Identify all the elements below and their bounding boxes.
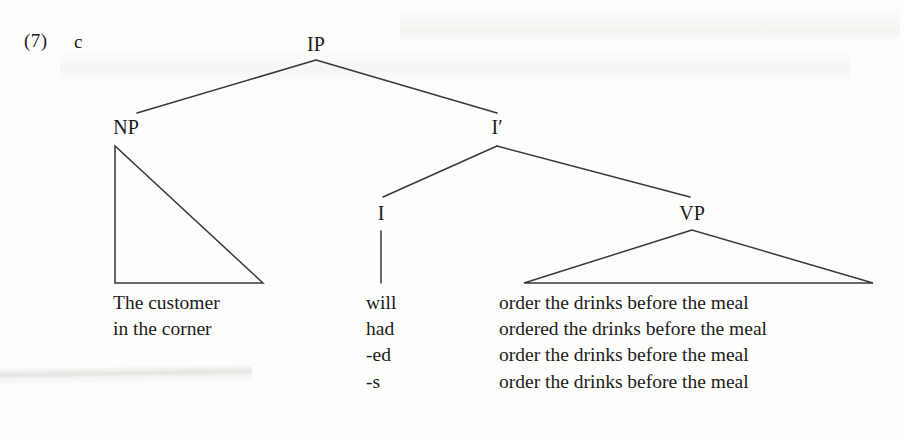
terminal-vp-line: order the drinks before the meal xyxy=(499,369,767,395)
scan-artifact-top xyxy=(400,6,900,42)
node-label-i-bar: I′ xyxy=(491,117,502,137)
branch-ibar-vp xyxy=(497,146,690,197)
node-label-i: I xyxy=(378,203,385,223)
terminal-np-line: The customer xyxy=(113,290,220,316)
scan-artifact-page-edge xyxy=(0,364,252,386)
terminal-np-line: in the corner xyxy=(113,316,220,342)
terminal-inflection-line: had xyxy=(366,316,396,342)
node-label-ip: IP xyxy=(307,34,325,54)
tree-branch-lines xyxy=(0,0,906,440)
branch-ip-ibar xyxy=(316,60,497,113)
node-label-vp: VP xyxy=(679,203,705,223)
terminal-vp-line: order the drinks before the meal xyxy=(499,290,767,316)
terminal-vp-line: ordered the drinks before the meal xyxy=(499,316,767,342)
terminal-column-inflection: will had -ed -s xyxy=(366,290,396,395)
example-letter: c xyxy=(74,31,82,53)
terminal-column-np: The customer in the corner xyxy=(113,290,220,342)
terminal-inflection-line: -s xyxy=(366,369,396,395)
scan-artifact-middle xyxy=(60,50,850,84)
terminal-vp-line: order the drinks before the meal xyxy=(499,342,767,368)
terminal-inflection-line: -ed xyxy=(366,342,396,368)
branch-ip-np xyxy=(137,60,316,113)
terminal-column-vp: order the drinks before the meal ordered… xyxy=(499,290,767,395)
branch-ibar-i xyxy=(383,146,497,197)
node-label-np: NP xyxy=(113,117,139,137)
triangle-np xyxy=(115,146,263,283)
syntax-tree-figure: (7) c IP NP I′ I VP The customer in the … xyxy=(0,0,906,440)
example-number: (7) xyxy=(24,30,47,52)
triangle-vp xyxy=(524,230,873,283)
terminal-inflection-line: will xyxy=(366,290,396,316)
